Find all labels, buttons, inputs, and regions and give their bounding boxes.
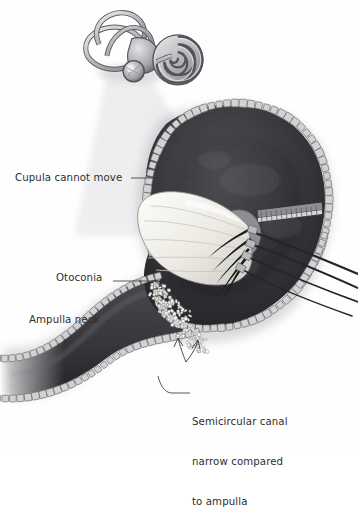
- epithelial-cell: [247, 100, 256, 109]
- epithelial-cell: [218, 324, 226, 332]
- epithelial-cell: [31, 392, 40, 401]
- epithelial-cell: [321, 164, 329, 172]
- epithelial-cell: [226, 323, 233, 330]
- epithelial-cell: [1, 355, 8, 362]
- epithelial-cell: [325, 196, 333, 204]
- epithelial-cell: [16, 353, 24, 361]
- epithelial-cell: [23, 351, 31, 359]
- otoconium-crystal: [175, 337, 179, 339]
- label-ampulla-neck: Ampulla neck: [29, 314, 99, 326]
- epithelial-cell: [17, 394, 25, 402]
- label-cupula: Cupula cannot move: [15, 172, 122, 184]
- epithelial-cell: [210, 324, 217, 331]
- otoconium-crystal: [187, 318, 190, 321]
- otoconium-crystal: [171, 299, 174, 303]
- epithelial-cell: [2, 395, 9, 402]
- otoconium-crystal: [175, 300, 177, 303]
- epithelial-cell: [154, 272, 162, 280]
- otoconium-crystal: [164, 311, 168, 315]
- epithelial-cell: [24, 393, 32, 401]
- otoconium-crystal: [150, 286, 153, 289]
- epithelial-cell: [325, 188, 333, 196]
- epithelial-cell: [324, 180, 332, 188]
- otoconium-crystal: [178, 313, 180, 316]
- epithelial-cell: [216, 101, 223, 108]
- otoconium-crystal: [179, 321, 182, 324]
- epithelial-cell: [207, 102, 215, 110]
- otoconium-crystal: [164, 292, 166, 294]
- epithelial-cell: [8, 355, 15, 362]
- epithelial-cell: [321, 232, 328, 239]
- epithelial-cell: [149, 161, 157, 169]
- otoconium-crystal: [168, 318, 171, 321]
- epithelial-cell: [233, 321, 241, 329]
- epithelial-cell: [9, 395, 16, 402]
- epithelial-cell: [146, 169, 154, 177]
- label-scc-line3: to ampulla: [192, 495, 288, 508]
- epithelial-cell: [203, 325, 210, 332]
- label-otoconia: Otoconia: [56, 272, 102, 284]
- epithelial-cell: [143, 184, 152, 193]
- epithelial-cell: [263, 103, 271, 111]
- otoconium-crystal: [153, 286, 156, 289]
- otoconium-crystal: [152, 297, 155, 299]
- otoconium-crystal: [158, 298, 162, 300]
- otoconium-crystal: [168, 301, 171, 305]
- epithelial-cell: [0, 395, 1, 402]
- otoconium-crystal: [189, 310, 191, 313]
- epithelial-cell: [325, 204, 333, 212]
- epithelial-cell: [255, 101, 263, 109]
- epithelial-cell: [239, 99, 248, 108]
- otoconium-crystal: [156, 291, 158, 295]
- label-scc-line2: narrow compared: [192, 455, 288, 468]
- label-scc-line1: Semicircular canal: [192, 415, 288, 428]
- epithelial-cell: [324, 212, 332, 220]
- otoconium-crystal: [159, 289, 163, 291]
- otoconium-crystal: [181, 324, 183, 328]
- otoconium-crystal: [189, 338, 193, 339]
- epithelial-cell: [241, 319, 250, 328]
- label-semicircular-canal: Semicircular canal narrow compared to am…: [192, 389, 288, 511]
- epithelial-cell: [323, 172, 330, 179]
- otoconium-crystal: [162, 307, 165, 310]
- epithelial-cell: [323, 220, 330, 227]
- otoconium-crystal: [163, 294, 165, 297]
- otoconium-crystal: [168, 296, 171, 299]
- otoconium-crystal: [179, 336, 182, 338]
- otoconium-crystal: [168, 316, 170, 319]
- epithelial-cell: [231, 99, 239, 107]
- epithelial-cell: [223, 100, 230, 107]
